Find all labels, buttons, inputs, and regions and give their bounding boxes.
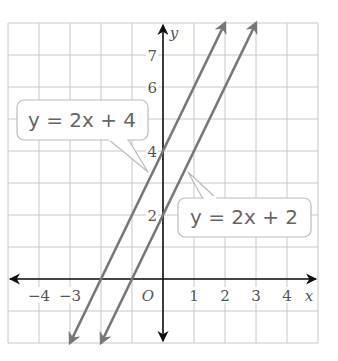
callout-label-2: y = 2x + 2 <box>190 205 298 229</box>
y-tick-label: 4 <box>147 143 157 161</box>
callout-line-2: y = 2x + 2 <box>178 172 311 237</box>
x-axis-label: x <box>305 287 314 305</box>
callout-label-1: y = 2x + 4 <box>28 108 136 132</box>
callout-line-1: y = 2x + 4 <box>17 100 148 172</box>
x-tick-label: 2 <box>220 287 230 305</box>
coordinate-plane: −4−312342467Oxy y = 2x + 4y = 2x + 2 <box>0 0 338 361</box>
y-tick-label: 2 <box>147 207 157 225</box>
y-tick-label: 6 <box>147 79 157 97</box>
x-tick-label: −4 <box>28 287 50 305</box>
x-tick-label: 1 <box>189 287 199 305</box>
x-tick-label: −3 <box>59 287 81 305</box>
x-tick-label: 4 <box>282 287 292 305</box>
callouts: y = 2x + 4y = 2x + 2 <box>17 100 311 237</box>
origin-label: O <box>142 287 154 305</box>
tick-labels: −4−312342467Oxy <box>28 24 314 305</box>
y-tick-label: 7 <box>147 47 157 65</box>
x-tick-label: 3 <box>251 287 261 305</box>
y-axis-label: y <box>169 24 179 42</box>
